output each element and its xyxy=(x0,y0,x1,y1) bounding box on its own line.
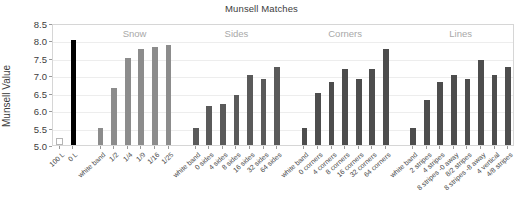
bar[interactable] xyxy=(369,69,375,145)
group-header: Lines xyxy=(449,28,472,39)
bar[interactable] xyxy=(220,104,226,145)
bar[interactable] xyxy=(111,88,117,145)
group-header: Snow xyxy=(123,28,147,39)
x-tick-mark xyxy=(168,146,169,149)
x-tick-mark xyxy=(208,146,209,149)
y-tick-label: 7.5 xyxy=(34,53,47,64)
x-tick-mark xyxy=(276,146,277,149)
x-tick-mark xyxy=(100,146,101,149)
bar[interactable] xyxy=(166,45,172,145)
x-tick-mark xyxy=(453,146,454,149)
bar[interactable] xyxy=(342,69,348,145)
y-tick-label: 6.5 xyxy=(34,88,47,99)
bar[interactable] xyxy=(383,49,389,145)
bar[interactable] xyxy=(465,79,471,145)
x-tick-label: 1/2 xyxy=(108,151,120,163)
gridline xyxy=(53,112,513,113)
x-tick-mark xyxy=(358,146,359,149)
bar[interactable] xyxy=(274,67,280,145)
x-tick-mark xyxy=(344,146,345,149)
bar[interactable] xyxy=(234,95,240,145)
x-tick-mark xyxy=(331,146,332,149)
bar[interactable] xyxy=(315,93,321,145)
bar[interactable] xyxy=(302,128,308,145)
bar-marker[interactable] xyxy=(56,138,63,145)
bar[interactable] xyxy=(424,100,430,145)
x-tick-mark xyxy=(263,146,264,149)
bar[interactable] xyxy=(437,82,443,145)
x-tick-mark xyxy=(426,146,427,149)
bar[interactable] xyxy=(125,58,131,145)
group-header: Sides xyxy=(225,28,249,39)
gridline xyxy=(53,95,513,96)
bar[interactable] xyxy=(138,49,144,145)
gridline xyxy=(53,130,513,131)
bar[interactable] xyxy=(356,79,362,145)
x-tick-mark xyxy=(412,146,413,149)
x-tick-mark xyxy=(222,146,223,149)
x-tick-mark xyxy=(195,146,196,149)
x-tick-mark xyxy=(494,146,495,149)
bar[interactable] xyxy=(478,60,484,145)
x-tick-label: 1/16 xyxy=(146,151,161,165)
bar[interactable] xyxy=(492,75,498,145)
y-axis-label: Munsell Value xyxy=(1,46,15,146)
munsell-matches-chart: Munsell Matches Munsell Value 5.05.56.06… xyxy=(0,0,523,207)
x-tick-mark xyxy=(317,146,318,149)
x-tick-mark xyxy=(385,146,386,149)
x-tick-label: 1/4 xyxy=(122,151,134,163)
y-tick-label: 7.0 xyxy=(34,71,47,82)
x-tick-mark xyxy=(113,146,114,149)
gridline xyxy=(53,77,513,78)
bar[interactable] xyxy=(329,82,335,145)
y-axis: 5.05.56.06.57.07.58.08.5 xyxy=(18,24,52,146)
y-tick-label: 5.5 xyxy=(34,123,47,134)
bar[interactable] xyxy=(505,67,511,145)
x-tick-mark xyxy=(439,146,440,149)
bar[interactable] xyxy=(98,128,104,145)
bar[interactable] xyxy=(206,106,212,145)
x-tick-mark xyxy=(303,146,304,149)
x-tick-mark xyxy=(371,146,372,149)
x-tick-mark xyxy=(127,146,128,149)
x-tick-mark xyxy=(235,146,236,149)
bar[interactable] xyxy=(152,47,158,145)
y-tick-label: 6.0 xyxy=(34,106,47,117)
x-tick-label: 0 L xyxy=(67,151,79,163)
gridline xyxy=(53,42,513,43)
x-tick-label: 100 L xyxy=(48,151,66,168)
y-tick-label: 8.0 xyxy=(34,36,47,47)
x-tick-mark xyxy=(480,146,481,149)
bar[interactable] xyxy=(451,75,457,145)
x-tick-mark xyxy=(140,146,141,149)
x-tick-mark xyxy=(154,146,155,149)
x-tick-mark xyxy=(466,146,467,149)
bar[interactable] xyxy=(71,40,77,145)
x-tick-mark xyxy=(72,146,73,149)
y-tick-label: 8.5 xyxy=(34,19,47,30)
x-tick-mark xyxy=(59,146,60,149)
bar[interactable] xyxy=(193,128,199,145)
bar[interactable] xyxy=(261,79,267,145)
x-axis: 100 L0 Lwhite band1/21/41/91/161/25white… xyxy=(52,146,514,207)
x-tick-mark xyxy=(507,146,508,149)
x-tick-label: white band xyxy=(76,151,106,179)
x-tick-mark xyxy=(249,146,250,149)
x-tick-label: 1/9 xyxy=(135,151,147,163)
bar[interactable] xyxy=(410,128,416,145)
plot-area: SnowSidesCornersLines xyxy=(52,24,514,146)
gridline xyxy=(53,60,513,61)
y-tick-label: 5.0 xyxy=(34,141,47,152)
x-tick-label: 1/25 xyxy=(159,151,174,165)
group-header: Corners xyxy=(328,28,362,39)
bar[interactable] xyxy=(247,75,253,145)
page-title: Munsell Matches xyxy=(0,3,523,14)
